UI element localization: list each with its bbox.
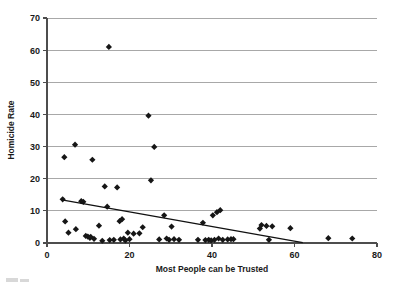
x-axis-ticks: 020406080 — [44, 243, 382, 260]
scatter-chart: 010203040506070 020406080 Most People ca… — [0, 0, 395, 288]
data-points — [60, 44, 356, 244]
artifact-speck — [6, 278, 18, 282]
data-point-marker — [96, 223, 102, 229]
data-point-marker — [102, 183, 108, 189]
data-point-marker — [287, 225, 293, 231]
data-point-marker — [168, 224, 174, 230]
x-axis-title: Most People can be Trusted — [156, 264, 268, 274]
trend-line — [62, 200, 303, 243]
data-point-marker — [60, 196, 66, 202]
y-tick-label: 40 — [30, 110, 40, 120]
y-tick-label: 10 — [30, 206, 40, 216]
y-tick-label: 0 — [35, 238, 40, 248]
x-tick-label: 80 — [372, 250, 382, 260]
data-point-marker — [156, 236, 162, 242]
x-tick-label: 60 — [289, 250, 299, 260]
data-point-marker — [125, 230, 131, 236]
y-tick-label: 70 — [30, 13, 40, 23]
data-point-marker — [195, 237, 201, 243]
data-point-marker — [151, 144, 157, 150]
data-point-marker — [114, 184, 120, 190]
data-point-marker — [148, 177, 154, 183]
data-point-marker — [349, 235, 355, 241]
data-point-marker — [140, 224, 146, 230]
data-point-marker — [61, 154, 67, 160]
data-point-marker — [171, 236, 177, 242]
data-point-marker — [89, 157, 95, 163]
data-point-marker — [176, 237, 182, 243]
plot-canvas: 010203040506070 020406080 Most People ca… — [0, 0, 395, 288]
y-tick-label: 60 — [30, 46, 40, 56]
y-tick-label: 30 — [30, 142, 40, 152]
x-tick-label: 40 — [207, 250, 217, 260]
x-tick-label: 0 — [44, 250, 49, 260]
data-point-marker — [111, 237, 117, 243]
data-point-marker — [136, 230, 142, 236]
data-point-marker — [145, 113, 151, 119]
y-axis-ticks: 010203040506070 — [30, 13, 47, 248]
data-point-marker — [73, 226, 79, 232]
y-tick-label: 50 — [30, 78, 40, 88]
artifact-speck — [20, 279, 29, 282]
data-point-marker — [65, 230, 71, 236]
data-point-marker — [325, 235, 331, 241]
data-point-marker — [62, 218, 68, 224]
data-point-marker — [131, 231, 137, 237]
y-tick-label: 20 — [30, 174, 40, 184]
gridlines — [47, 18, 377, 211]
data-point-marker — [263, 223, 269, 229]
data-point-marker — [269, 223, 275, 229]
y-axis-title: Homicide Rate — [6, 100, 16, 159]
data-point-marker — [106, 44, 112, 50]
x-tick-label: 20 — [124, 250, 134, 260]
